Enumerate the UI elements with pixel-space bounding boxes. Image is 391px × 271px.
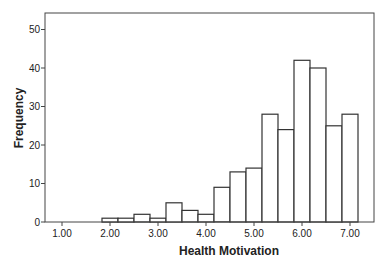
histogram-bar bbox=[198, 214, 214, 222]
histogram-bars bbox=[102, 60, 358, 222]
histogram-bar bbox=[166, 203, 182, 222]
x-tick-label: 5.00 bbox=[244, 228, 264, 239]
x-axis-title: Health Motivation bbox=[179, 244, 279, 258]
x-tick-label: 4.00 bbox=[196, 228, 216, 239]
histogram-bar bbox=[326, 126, 342, 222]
x-axis: 1.002.003.004.005.006.007.00 bbox=[52, 222, 360, 239]
x-tick-label: 7.00 bbox=[340, 228, 360, 239]
histogram-bar bbox=[310, 68, 326, 222]
y-tick-label: 50 bbox=[29, 24, 41, 35]
y-tick-label: 40 bbox=[29, 63, 41, 74]
y-axis-title: Frequency bbox=[12, 87, 26, 148]
y-axis: 01020304050 bbox=[29, 24, 45, 228]
histogram-bar bbox=[278, 130, 294, 222]
histogram-bar bbox=[230, 172, 246, 222]
x-tick-label: 1.00 bbox=[52, 228, 72, 239]
y-tick-label: 0 bbox=[34, 217, 40, 228]
y-tick-label: 10 bbox=[29, 178, 41, 189]
histogram-bar bbox=[294, 60, 310, 222]
y-tick-label: 30 bbox=[29, 101, 41, 112]
histogram-bar bbox=[214, 187, 230, 222]
histogram-bar bbox=[262, 114, 278, 222]
y-tick-label: 20 bbox=[29, 140, 41, 151]
histogram-bar bbox=[182, 210, 198, 222]
histogram-bar bbox=[246, 168, 262, 222]
histogram-chart: 01020304050 1.002.003.004.005.006.007.00… bbox=[0, 0, 391, 271]
histogram-bar bbox=[342, 114, 358, 222]
x-tick-label: 6.00 bbox=[292, 228, 312, 239]
x-tick-label: 3.00 bbox=[148, 228, 168, 239]
x-tick-label: 2.00 bbox=[100, 228, 120, 239]
histogram-bar bbox=[134, 214, 150, 222]
